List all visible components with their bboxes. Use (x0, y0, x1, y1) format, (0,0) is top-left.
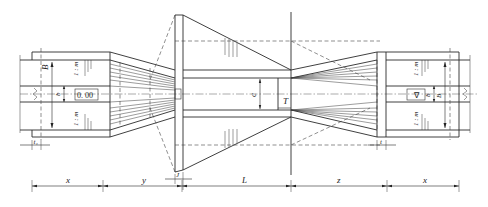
engineering-diagram: B b 0. 00 1 : m 1 : m (0, 0, 488, 207)
z-label: z (336, 175, 341, 185)
left-slope-bottom: 1 : m (72, 112, 80, 126)
T-label: T (283, 96, 289, 106)
elevation-value: 0. 00 (77, 91, 93, 100)
x-right-label: x (422, 175, 427, 185)
y-label: y (141, 175, 146, 185)
left-slope-top: 1 : m (72, 62, 80, 76)
L-label: L (241, 175, 247, 185)
J-label: J (176, 171, 180, 179)
right-slope-top: 1 : m (412, 62, 420, 76)
right-transition (291, 41, 377, 145)
t1-label: t₁ (34, 138, 38, 146)
left-B-label: B (40, 64, 50, 70)
right-B-label: B (435, 93, 443, 98)
wing-wall (150, 15, 380, 172)
left-transition (110, 52, 181, 137)
center-channel: c T (183, 70, 291, 117)
bottom-dimension-line: x y L z x (32, 175, 459, 192)
x-left-label: x (65, 175, 70, 185)
right-elevation-mark: ∇ (413, 91, 420, 100)
right-slope-bottom: 1 : m (412, 112, 420, 126)
left-b-label: b (54, 92, 62, 96)
c-label: c (248, 93, 258, 97)
